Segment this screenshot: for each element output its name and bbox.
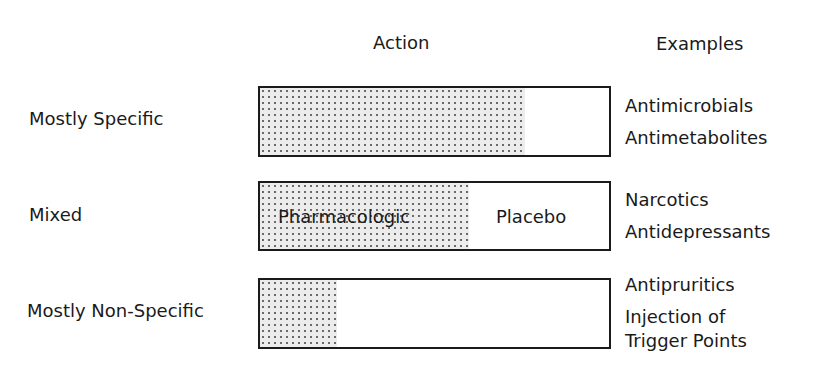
action-header: Action <box>373 32 429 53</box>
examples-header: Examples <box>656 33 743 54</box>
pharmacologic-fill <box>260 280 337 347</box>
action-bar-mixed: Pharmacologic Placebo <box>258 181 611 251</box>
examples-mostly-non-specific: Antipruritics Injection of Trigger Point… <box>625 270 747 354</box>
action-bar-mostly-specific <box>258 86 611 157</box>
example-item: Trigger Points <box>625 328 747 354</box>
example-item: Antimetabolites <box>625 122 767 154</box>
example-item: Antimicrobials <box>625 90 767 122</box>
row-label-mostly-non-specific: Mostly Non-Specific <box>27 300 204 321</box>
example-item: Antipruritics <box>625 270 747 300</box>
row-label-mixed: Mixed <box>29 204 82 225</box>
row-label-mostly-specific: Mostly Specific <box>29 108 163 129</box>
pharmacologic-fill <box>260 88 525 155</box>
examples-mostly-specific: Antimicrobials Antimetabolites <box>625 90 767 154</box>
placebo-label: Placebo <box>496 206 566 227</box>
examples-mixed: Narcotics Antidepressants <box>625 184 770 248</box>
pharmacologic-label: Pharmacologic <box>278 206 410 227</box>
example-item: Injection of <box>625 306 747 328</box>
example-item: Antidepressants <box>625 216 770 248</box>
action-bar-mostly-non-specific <box>258 278 611 349</box>
example-item: Narcotics <box>625 184 770 216</box>
